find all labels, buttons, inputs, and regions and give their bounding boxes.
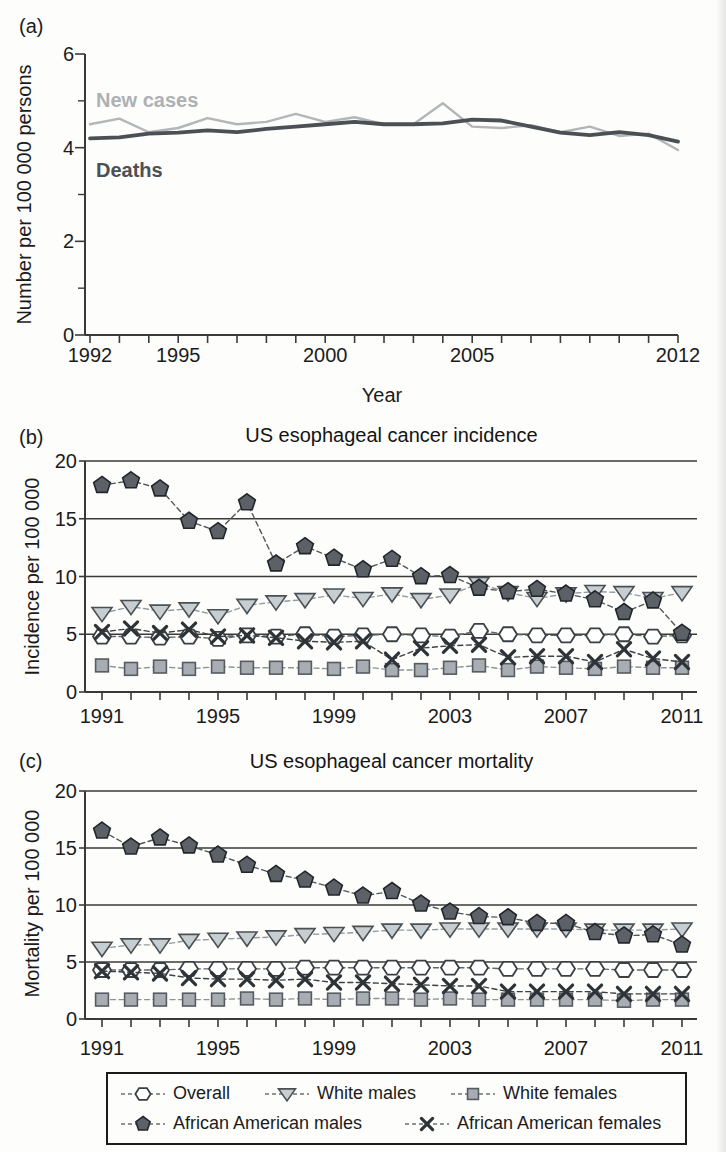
square-marker-icon <box>96 659 109 672</box>
white-females-square-marker-icon <box>450 1085 496 1103</box>
square-marker-icon <box>357 992 370 1005</box>
legend-label: African American males <box>173 1113 362 1134</box>
square-marker-icon <box>125 663 138 676</box>
tick-label: 15 <box>55 837 77 859</box>
square-marker-icon <box>299 992 312 1005</box>
pentagon-marker-icon <box>239 494 256 510</box>
triangle_down-marker-icon <box>353 592 373 606</box>
tick-label: 2007 <box>544 705 589 727</box>
tick-label: 2003 <box>428 705 473 727</box>
square-marker-icon <box>299 661 312 674</box>
legend-entry-white-males: White males <box>264 1083 416 1104</box>
pentagon-marker-icon <box>326 879 343 895</box>
panel-a-label: (a) <box>19 15 43 38</box>
square-marker-icon <box>444 661 457 674</box>
hexagon-marker-icon <box>383 627 401 641</box>
pentagon-marker-icon <box>558 914 575 930</box>
tick-label: 4 <box>63 137 74 159</box>
chart-a-new-cases-label: New cases <box>96 89 198 112</box>
triangle_down-marker-icon <box>324 928 344 942</box>
pentagon-marker-icon <box>152 829 169 845</box>
pentagon-marker-icon <box>529 914 546 930</box>
tick-label: 2007 <box>544 1037 589 1059</box>
tick-label: 5 <box>66 951 77 973</box>
pentagon-marker-icon <box>123 838 140 854</box>
square-marker-icon <box>183 993 196 1006</box>
tick-label: 15 <box>55 508 77 530</box>
series-overall <box>93 961 691 977</box>
square-marker-icon <box>96 993 109 1006</box>
tick-label: 1991 <box>80 1037 125 1059</box>
pentagon-marker-icon <box>674 936 691 952</box>
hexagon-marker-icon <box>470 961 488 975</box>
hexagon-marker-icon <box>586 628 604 642</box>
pentagon-marker-icon <box>297 538 314 554</box>
hexagon-marker-icon <box>586 962 604 976</box>
square-marker-icon <box>212 660 225 673</box>
triangle_down-marker-icon <box>469 923 489 937</box>
tick-label: 2011 <box>660 1037 703 1059</box>
hexagon-marker-icon <box>412 961 430 975</box>
series-deaths <box>90 120 678 142</box>
tick-label: 10 <box>55 894 77 916</box>
pentagon-marker-icon <box>384 550 401 566</box>
square-marker-icon <box>125 993 138 1006</box>
square-marker-icon <box>468 1088 479 1099</box>
triangle_down-marker-icon <box>150 939 170 953</box>
legend-label: African American females <box>457 1113 661 1134</box>
triangle_down-marker-icon <box>208 933 228 947</box>
pentagon-marker-icon <box>123 472 140 488</box>
tick-label: 1995 <box>196 1037 241 1059</box>
tick-label: 6 <box>63 43 74 65</box>
hexagon-marker-icon <box>135 1088 150 1100</box>
pentagon-marker-icon <box>529 580 546 596</box>
white-males-triangle-marker-icon <box>264 1085 310 1103</box>
hexagon-marker-icon <box>528 628 546 642</box>
square-marker-icon <box>415 993 428 1006</box>
scan-edge-shadow <box>716 0 726 1152</box>
pentagon-marker-icon <box>268 555 285 571</box>
triangle_down-marker-icon <box>266 931 286 945</box>
hexagon-marker-icon <box>383 961 401 975</box>
square-marker-icon <box>328 993 341 1006</box>
legend-entry-african-american-males: African American males <box>120 1113 362 1134</box>
tick-label: 1995 <box>196 705 241 727</box>
x-marker-icon <box>472 979 485 992</box>
pentagon-marker-icon <box>181 837 198 853</box>
square-marker-icon <box>241 992 254 1005</box>
series-line <box>90 120 678 142</box>
tick-label: 2011 <box>660 705 703 727</box>
tick-label: 2012 <box>656 344 701 366</box>
square-marker-icon <box>473 993 486 1006</box>
square-marker-icon <box>212 993 225 1006</box>
chart-a-x-axis-label: Year <box>85 384 679 407</box>
hexagon-marker-icon <box>644 630 662 644</box>
square-marker-icon <box>183 663 196 676</box>
tick-label: 2 <box>63 230 74 252</box>
triangle_down-marker-icon <box>92 607 112 621</box>
square-marker-icon <box>444 992 457 1005</box>
african-american-females-x-marker-icon <box>404 1115 450 1133</box>
african-american-males-pentagon-marker-icon <box>120 1115 166 1133</box>
pentagon-marker-icon <box>384 883 401 899</box>
tick-label: 10 <box>55 566 77 588</box>
pentagon-marker-icon <box>442 567 459 583</box>
overall-hexagon-marker-icon <box>120 1085 166 1103</box>
pentagon-marker-icon <box>413 568 430 584</box>
pentagon-marker-icon <box>355 887 372 903</box>
legend-box: Overall White males White females Africa… <box>106 1072 687 1145</box>
tick-label: 0 <box>66 1008 77 1030</box>
triangle_down-marker-icon <box>279 1088 296 1100</box>
tick-label: 1999 <box>312 1037 357 1059</box>
pentagon-marker-icon <box>297 871 314 887</box>
legend-row-1: Overall White males White females <box>120 1083 685 1104</box>
legend-label: White females <box>503 1083 617 1104</box>
pentagon-marker-icon <box>413 895 430 911</box>
hexagon-marker-icon <box>615 627 633 641</box>
figure-root: { "figure": { "background": "#fdfdfb", "… <box>0 0 726 1152</box>
tick-label: 20 <box>55 780 77 802</box>
tick-label: 2005 <box>450 344 495 366</box>
x-marker-icon <box>501 651 514 664</box>
tick-label: 20 <box>55 450 77 472</box>
triangle_down-marker-icon <box>440 923 460 937</box>
